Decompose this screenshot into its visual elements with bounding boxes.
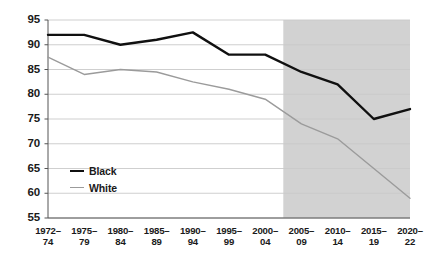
chart-legend: Black White: [70, 162, 117, 196]
y-axis-tick-label: 60: [14, 187, 40, 199]
x-axis-tick-label: 1990– 94: [175, 226, 211, 247]
y-axis-tick-label: 65: [14, 163, 40, 175]
x-axis-tick-label: 1985– 89: [139, 226, 175, 247]
x-axis-tick-label: 2010– 14: [320, 226, 356, 247]
legend-label-black: Black: [89, 165, 117, 177]
legend-swatch-white-icon: [70, 187, 84, 188]
y-axis-tick-label: 75: [14, 113, 40, 125]
y-axis-tick-label: 95: [14, 14, 40, 26]
x-axis-tick-label: 1975– 79: [66, 226, 102, 247]
legend-label-white: White: [89, 182, 117, 194]
legend-swatch-black-icon: [70, 170, 84, 172]
y-axis-tick-label: 80: [14, 88, 40, 100]
x-axis-tick-label: 1995– 99: [211, 226, 247, 247]
y-axis-tick-label: 55: [14, 212, 40, 224]
legend-item-black: Black: [70, 162, 117, 179]
x-axis-tick-label: 2015– 19: [356, 226, 392, 247]
x-axis-tick-label: 1980– 84: [102, 226, 138, 247]
x-axis-tick-label: 2020– 22: [392, 226, 428, 247]
x-axis-tick-label: 2000– 04: [247, 226, 283, 247]
y-axis-tick-label: 85: [14, 64, 40, 76]
y-axis-tick-label: 70: [14, 138, 40, 150]
x-axis-tick-label: 2005– 09: [283, 226, 319, 247]
legend-item-white: White: [70, 179, 117, 196]
y-axis-tick-label: 90: [14, 39, 40, 51]
x-axis-tick-label: 1972– 74: [30, 226, 66, 247]
